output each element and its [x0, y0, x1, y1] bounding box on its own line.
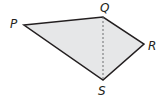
vertex-label-r: R — [148, 39, 156, 53]
vertex-label-q: Q — [100, 1, 109, 15]
quadrilateral-pqrs — [24, 17, 144, 80]
vertex-label-s: S — [98, 84, 106, 98]
vertex-label-p: P — [10, 17, 18, 31]
quadrilateral-diagram: P Q R S — [0, 0, 161, 101]
